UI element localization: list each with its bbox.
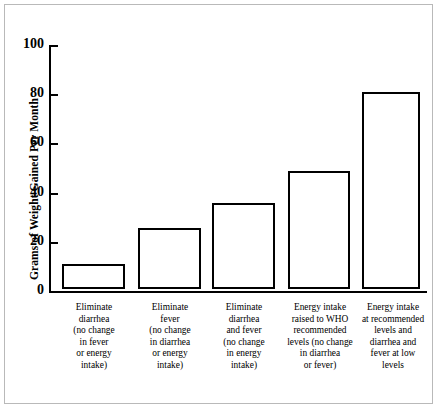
x-category-label-line: in diarrhea	[129, 337, 211, 349]
bar	[362, 92, 420, 289]
x-category-label-line: (no change	[53, 325, 135, 337]
x-category-label-line: intake)	[53, 360, 135, 372]
x-category-label: Eliminatefever(no changein diarrheaor en…	[129, 302, 211, 372]
x-category-label: Energy intakeat recommendedlevels anddia…	[349, 302, 437, 372]
bar	[288, 171, 350, 289]
y-tick-label: 0	[37, 282, 44, 298]
y-tick-mark	[51, 94, 58, 96]
x-category-label-line: Eliminate	[129, 302, 211, 314]
y-tick-mark	[51, 291, 58, 293]
x-axis-line	[49, 291, 427, 293]
x-category-label-line: Energy intake	[349, 302, 437, 314]
bar	[62, 264, 125, 289]
y-tick-label: 20	[30, 233, 44, 249]
x-category-label-line: intake)	[129, 360, 211, 372]
x-category-label-line: diarrhea and	[349, 337, 437, 349]
x-category-label-line: at recommended	[349, 314, 437, 326]
x-category-label-line: levels	[349, 360, 437, 372]
x-category-label-line: diarrhea	[53, 314, 135, 326]
y-tick-mark	[51, 143, 58, 145]
x-category-label-line: or energy	[53, 348, 135, 360]
x-category-label-line: levels and	[349, 325, 437, 337]
x-category-label-line: or energy	[129, 348, 211, 360]
chart-figure: Grams of Weight Gained Per Month 0204060…	[4, 4, 433, 404]
y-tick-label: 100	[23, 36, 44, 52]
x-category-label-line: fever at low	[349, 348, 437, 360]
x-category-label: Eliminatediarrhea(no changein feveror en…	[53, 302, 135, 372]
bar	[138, 228, 201, 290]
y-tick-mark	[51, 242, 58, 244]
y-tick-label: 40	[30, 184, 44, 200]
y-tick-label: 80	[30, 85, 44, 101]
x-category-label-line: (no change	[129, 325, 211, 337]
x-category-label-line: in fever	[53, 337, 135, 349]
plot-area: 020406080100	[49, 45, 427, 291]
x-category-label-line: Eliminate	[53, 302, 135, 314]
y-tick-mark	[51, 45, 58, 47]
x-axis-category-labels: Eliminatediarrhea(no changein feveror en…	[49, 302, 429, 397]
x-category-label-line: fever	[129, 314, 211, 326]
y-axis-line	[49, 45, 51, 293]
y-tick-label: 60	[30, 134, 44, 150]
bar	[212, 203, 275, 289]
y-tick-mark	[51, 193, 58, 195]
